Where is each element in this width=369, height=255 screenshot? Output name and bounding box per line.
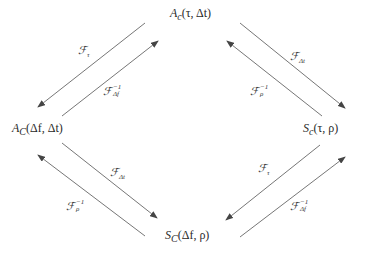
label-bottom-to-left: ℱ−1ρ xyxy=(66,199,84,213)
node-top: Ac(τ, Δt) xyxy=(170,6,211,22)
node-left: AC(Δf, Δt) xyxy=(12,121,63,137)
label-top-to-left: ℱτ xyxy=(78,44,90,59)
node-left-sub: C xyxy=(19,126,26,137)
label-left-to-bottom: ℱΔt xyxy=(110,166,125,181)
node-right-args: (τ, ρ) xyxy=(313,121,338,135)
node-top-args: (τ, Δt) xyxy=(182,6,211,20)
label-top-to-right: ℱΔt xyxy=(290,50,305,65)
label-right-to-top: ℱ−1ρ xyxy=(250,84,268,98)
node-bottom: SC(Δf, ρ) xyxy=(165,228,209,244)
label-right-to-bottom: ℱτ xyxy=(258,162,270,177)
arrow-top-to-left xyxy=(38,23,145,107)
arrow-left-to-top xyxy=(62,41,158,116)
arrow-bottom-to-right xyxy=(240,157,345,237)
node-left-args: (Δf, Δt) xyxy=(26,121,63,135)
node-right: Sc(τ, ρ) xyxy=(303,121,338,137)
arrow-right-to-top xyxy=(227,41,322,116)
node-bottom-args: (Δf, ρ) xyxy=(178,228,210,242)
label-bottom-to-right: ℱ−1Δf xyxy=(290,199,308,213)
label-left-to-top: ℱ−1Δf xyxy=(103,84,121,98)
node-bottom-sub: C xyxy=(171,233,178,244)
